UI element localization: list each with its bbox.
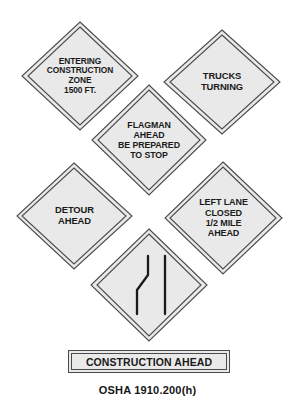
sign-rect-inner-border: CONSTRUCTION AHEAD (71, 353, 227, 370)
osha-construction-signs-figure: ENTERING CONSTRUCTION ZONE 1500 FT. TRUC… (0, 0, 295, 416)
figure-caption: OSHA 1910.200(h) (0, 384, 295, 396)
sign-lane-shift-symbol (90, 228, 208, 342)
sign-rect-label: CONSTRUCTION AHEAD (86, 356, 212, 368)
diamond-shape-outline (90, 228, 208, 342)
sign-construction-ahead: CONSTRUCTION AHEAD (68, 350, 230, 373)
